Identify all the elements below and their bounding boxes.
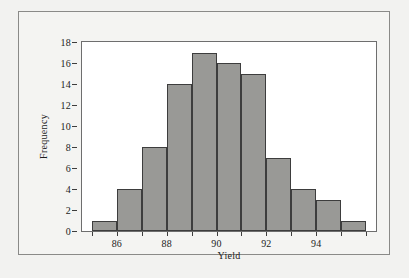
x-tick-mark xyxy=(167,232,168,236)
y-tick-mark xyxy=(72,84,77,85)
x-axis-title: Yield xyxy=(81,250,377,261)
x-tick-mark xyxy=(192,232,193,236)
histogram-bar xyxy=(142,147,167,231)
x-tick-mark xyxy=(241,232,242,236)
x-tick-mark xyxy=(266,232,267,236)
y-tick-mark xyxy=(72,126,77,127)
histogram-bar xyxy=(217,63,242,231)
y-tick-mark xyxy=(72,42,77,43)
x-tick-mark xyxy=(366,232,367,236)
y-tick-mark xyxy=(72,231,77,232)
y-tick-label: 14 xyxy=(61,79,71,90)
y-tick-label: 16 xyxy=(61,58,71,69)
histogram-bar xyxy=(92,221,117,232)
histogram-bar xyxy=(341,221,366,232)
y-tick-label: 2 xyxy=(66,205,71,216)
y-tick-mark xyxy=(72,63,77,64)
x-tick-label: 88 xyxy=(162,238,172,249)
x-axis: 8688909294 xyxy=(81,232,377,252)
y-tick-label: 8 xyxy=(66,142,71,153)
y-tick-label: 0 xyxy=(66,226,71,237)
y-tick-label: 10 xyxy=(61,121,71,132)
histogram-bar xyxy=(266,158,291,232)
x-tick-mark xyxy=(117,232,118,236)
figure-outer-frame: Frequency 024681012141618 8688909294 Yie… xyxy=(18,11,390,255)
histogram-bar xyxy=(192,53,217,232)
plot-area xyxy=(82,42,376,231)
y-tick-mark xyxy=(72,105,77,106)
y-tick-label: 4 xyxy=(66,184,71,195)
histogram-bar xyxy=(117,189,142,231)
x-tick-mark xyxy=(92,232,93,236)
y-tick-mark xyxy=(72,168,77,169)
y-tick-mark xyxy=(72,189,77,190)
histogram-bar xyxy=(316,200,341,232)
x-tick-label: 86 xyxy=(112,238,122,249)
figure-canvas: Frequency 024681012141618 8688909294 Yie… xyxy=(0,0,409,278)
y-axis: 024681012141618 xyxy=(19,12,81,233)
x-tick-mark xyxy=(142,232,143,236)
x-tick-mark xyxy=(316,232,317,236)
y-tick-mark xyxy=(72,147,77,148)
y-tick-label: 18 xyxy=(61,37,71,48)
x-tick-label: 94 xyxy=(311,238,321,249)
y-tick-mark xyxy=(72,210,77,211)
histogram-bar xyxy=(241,74,266,232)
x-tick-mark xyxy=(217,232,218,236)
plot-frame xyxy=(81,41,377,232)
histogram-bar xyxy=(291,189,316,231)
y-tick-label: 6 xyxy=(66,163,71,174)
x-tick-label: 90 xyxy=(211,238,221,249)
x-tick-label: 92 xyxy=(261,238,271,249)
x-tick-mark xyxy=(341,232,342,236)
histogram-bar xyxy=(167,84,192,231)
y-tick-label: 12 xyxy=(61,100,71,111)
x-tick-mark xyxy=(291,232,292,236)
